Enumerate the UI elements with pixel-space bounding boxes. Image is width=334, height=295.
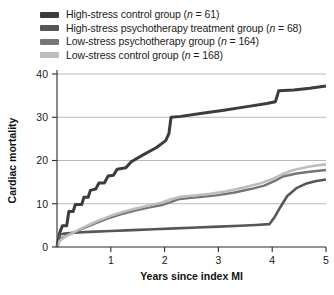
- legend-label: Low-stress control group (n = 168): [66, 50, 223, 61]
- y-tick-label: 10: [36, 198, 48, 210]
- legend-swatch-icon: [40, 25, 59, 31]
- series-layer: [57, 86, 326, 247]
- legend-item-high-stress-control: High-stress control group (n = 61): [40, 8, 334, 22]
- legend-swatch-icon: [40, 12, 59, 18]
- x-tick-label: 2: [162, 254, 168, 266]
- plot-svg: 01020304012345 Years since index MICardi…: [0, 62, 334, 295]
- y-tick-label: 20: [36, 154, 48, 166]
- legend-swatch-icon: [40, 39, 59, 45]
- legend-label: High-stress control group (n = 61): [66, 9, 219, 20]
- x-tick-label: 4: [269, 254, 275, 266]
- legend-item-low-stress-psychotherapy: Low-stress psychotherapy group (n = 164): [40, 35, 334, 49]
- plot-area: 01020304012345 Years since index MICardi…: [0, 62, 334, 295]
- legend-item-high-stress-psychotherapy: High-stress psychotherapy treatment grou…: [40, 22, 334, 36]
- x-tick-label: 1: [108, 254, 114, 266]
- y-tick-label: 40: [36, 68, 48, 80]
- y-axis-title: Cardiac mortality: [6, 117, 18, 203]
- legend-label: Low-stress psychotherapy group (n = 164): [66, 36, 259, 47]
- legend-item-low-stress-control: Low-stress control group (n = 168): [40, 49, 334, 63]
- chart-legend: High-stress control group (n = 61) High-…: [40, 8, 334, 62]
- y-tick-label: 30: [36, 111, 48, 123]
- series-line-2: [57, 170, 326, 247]
- x-tick-label: 3: [215, 254, 221, 266]
- y-tick-label: 0: [42, 241, 48, 253]
- tick-labels: 01020304012345: [36, 68, 329, 266]
- x-axis-title: Years since index MI: [140, 270, 243, 282]
- legend-swatch-icon: [40, 52, 59, 58]
- series-line-1: [57, 180, 326, 247]
- cardiac-mortality-chart: High-stress control group (n = 61) High-…: [0, 0, 334, 295]
- x-tick-label: 5: [323, 254, 329, 266]
- legend-label: High-stress psychotherapy treatment grou…: [66, 23, 302, 34]
